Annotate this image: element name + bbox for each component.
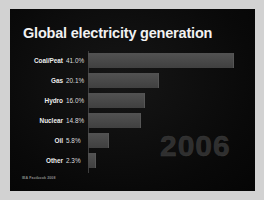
bar-gas xyxy=(88,73,159,88)
bar-value-label: 20.1% xyxy=(66,71,90,90)
bar-category-label: Gas xyxy=(10,71,63,90)
bar-track xyxy=(88,153,248,168)
bar-row: Gas 20.1% xyxy=(10,71,255,90)
bar-track xyxy=(88,133,248,148)
bar-category-label: Hydro xyxy=(10,91,63,110)
bar-category-label: Coal/Peat xyxy=(10,51,63,70)
bar-row: Coal/Peat 41.0% xyxy=(10,51,255,70)
bar-nuclear xyxy=(88,113,141,128)
bar-row: Oil 5.8% xyxy=(10,131,255,150)
bar-coal-peat xyxy=(88,53,234,68)
bar-other xyxy=(88,153,96,168)
bar-value-label: 2.3% xyxy=(66,151,90,170)
bar-category-label: Other xyxy=(10,151,63,170)
bar-value-label: 5.8% xyxy=(66,131,90,150)
presentation-slide: Global electricity generation 2006 Coal/… xyxy=(10,9,255,191)
bar-category-label: Oil xyxy=(10,131,63,150)
bar-value-label: 41.0% xyxy=(66,51,90,70)
bar-row: Hydro 16.0% xyxy=(10,91,255,110)
bar-value-label: 16.0% xyxy=(66,91,90,110)
bar-track xyxy=(88,93,248,108)
bar-row: Other 2.3% xyxy=(10,151,255,170)
bar-value-label: 14.8% xyxy=(66,111,90,130)
bar-track xyxy=(88,73,248,88)
bar-row: Nuclear 14.8% xyxy=(10,111,255,130)
source-credit: IEA Factbook 2008 xyxy=(22,176,56,180)
slide-frame: Global electricity generation 2006 Coal/… xyxy=(0,0,264,200)
bar-category-label: Nuclear xyxy=(10,111,63,130)
bar-chart-plot-area: Coal/Peat 41.0% Gas 20.1% Hydro 16.0% xyxy=(10,51,255,173)
bar-oil xyxy=(88,133,109,148)
bar-track xyxy=(88,53,248,68)
bar-track xyxy=(88,113,248,128)
bar-hydro xyxy=(88,93,145,108)
page-title: Global electricity generation xyxy=(23,25,212,41)
